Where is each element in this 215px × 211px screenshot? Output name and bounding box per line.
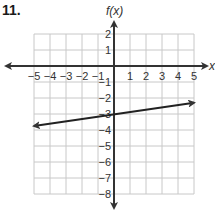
x-tick-label: 1: [127, 70, 133, 82]
x-tick-label: 2: [143, 70, 149, 82]
y-tick-label: 1: [105, 44, 111, 56]
x-tick-label: −5: [28, 70, 41, 82]
y-tick-label: −4: [98, 124, 111, 136]
x-tick-label: 4: [175, 70, 181, 82]
y-tick-label: −6: [98, 156, 111, 168]
y-tick-label: −5: [98, 140, 111, 152]
x-tick-label: −4: [44, 70, 57, 82]
coordinate-plane: xf(x)−5−4−3−2−11234521−1−2−3−4−5−6−7−8: [0, 0, 215, 211]
y-tick-label: 2: [105, 28, 111, 40]
x-tick-label: 5: [191, 70, 197, 82]
y-tick-label: −7: [98, 172, 111, 184]
y-tick-label: −3: [98, 108, 111, 120]
x-tick-label: −3: [60, 70, 73, 82]
y-axis-label: f(x): [106, 4, 123, 18]
y-tick-label: −2: [98, 92, 111, 104]
x-axis-label: x: [208, 59, 215, 73]
y-tick-label: −8: [98, 188, 111, 200]
x-tick-label: −2: [76, 70, 89, 82]
x-tick-label: 3: [159, 70, 165, 82]
y-tick-label: −1: [98, 76, 111, 88]
